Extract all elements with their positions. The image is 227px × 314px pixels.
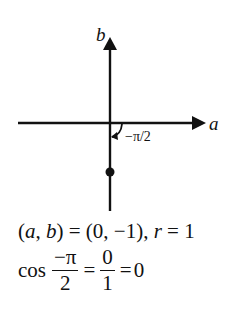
angle-label: −π/2 (125, 129, 151, 144)
coordinate-diagram: b a −π/2 (0, 0, 227, 220)
fraction-ratio: 0 1 (100, 246, 115, 293)
cosine-result: 0 (134, 260, 145, 281)
fraction-angle: −π 2 (52, 246, 78, 293)
horizontal-axis-label: a (209, 113, 219, 134)
equation-coordinates: (a, b) = (0, −1), r = 1 (18, 221, 195, 242)
angle-arrow-icon (111, 132, 118, 140)
vertical-axis-label: b (96, 24, 106, 45)
equation-cosine: cos −π 2 = 0 1 = 0 (18, 244, 144, 296)
horizontal-axis-arrow-icon (192, 116, 206, 130)
cos-function: cos (18, 260, 46, 281)
point-marker (106, 168, 115, 177)
